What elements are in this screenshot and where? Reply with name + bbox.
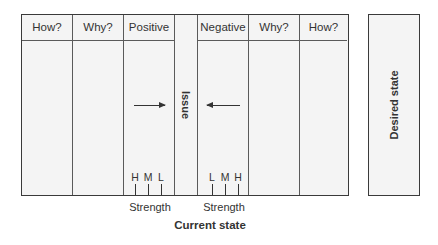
scale-label-low: L (206, 171, 218, 183)
desired-state-box: Desired state (368, 14, 420, 196)
negative-strength-scale: L M H (198, 165, 249, 195)
arrow-left-icon (207, 105, 240, 106)
scale-label-low: L (155, 171, 167, 183)
scale-label-high: H (232, 171, 244, 183)
column-how-positive: How? (22, 15, 73, 195)
column-header: Why? (73, 15, 123, 41)
column-header: Why? (249, 15, 299, 41)
tick-mark (135, 184, 136, 195)
arrow-right-icon (134, 105, 165, 106)
current-state-frame: How? Why? Positive H M L Issue Negative … (21, 14, 349, 196)
tick-mark (161, 184, 162, 195)
desired-state-label: Desired state (388, 70, 400, 139)
scale-label-high: H (129, 171, 141, 183)
tick-mark (212, 184, 213, 195)
column-issue: Issue (175, 15, 198, 195)
column-header: Positive (124, 15, 174, 41)
tick-mark (148, 184, 149, 195)
column-why-positive: Why? (73, 15, 124, 195)
column-header: Negative (198, 15, 248, 41)
negative-strength-label: Strength (194, 201, 254, 213)
column-negative: Negative L M H (198, 15, 249, 195)
column-why-negative: Why? (249, 15, 300, 195)
column-header: How? (300, 15, 347, 41)
tick-mark (225, 184, 226, 195)
tick-mark (238, 184, 239, 195)
current-state-caption: Current state (145, 219, 275, 231)
positive-strength-scale: H M L (124, 165, 175, 195)
column-header: How? (22, 15, 72, 41)
issue-label: Issue (180, 91, 192, 119)
scale-label-medium: M (219, 171, 231, 183)
scale-label-medium: M (142, 171, 154, 183)
column-how-negative: How? (300, 15, 347, 195)
column-positive: Positive H M L (124, 15, 175, 195)
positive-strength-label: Strength (120, 201, 180, 213)
